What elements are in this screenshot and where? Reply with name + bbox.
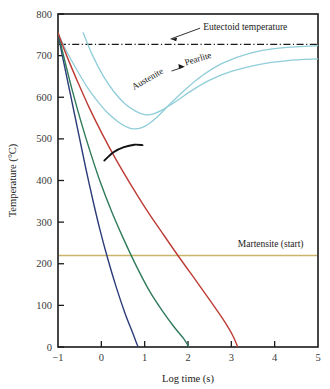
austenite-label: Austenite bbox=[130, 66, 165, 92]
series-line-cooling-curve-medium bbox=[58, 33, 189, 347]
y-axis-tick-label: 800 bbox=[36, 9, 52, 20]
y-axis-tick-label: 300 bbox=[36, 217, 52, 228]
y-axis-tick-label: 400 bbox=[36, 175, 52, 186]
y-axis-tick-label: 200 bbox=[36, 258, 52, 269]
x-axis-tick-label: −1 bbox=[52, 352, 63, 363]
chart-canvas: 0100200300400500600700800−1012345Log tim… bbox=[0, 0, 330, 389]
y-axis-tick-label: 500 bbox=[36, 133, 52, 144]
x-axis-title: Log time (s) bbox=[162, 373, 214, 385]
ttt-diagram-chart: 0100200300400500600700800−1012345Log tim… bbox=[0, 0, 330, 389]
marker-transformation-arc bbox=[104, 145, 142, 161]
series-line-austenite-to-pearlite-start bbox=[58, 33, 318, 129]
series-line-austenite-to-pearlite-finish bbox=[83, 33, 318, 115]
x-axis-tick-label: 4 bbox=[272, 352, 278, 363]
eutectoid-leader-line bbox=[171, 28, 200, 39]
x-axis-tick-label: 0 bbox=[99, 352, 104, 363]
y-axis-tick-label: 0 bbox=[47, 342, 52, 353]
pearlite-label: Pearlite bbox=[183, 50, 212, 68]
x-axis-tick-label: 2 bbox=[185, 352, 190, 363]
y-axis-tick-label: 600 bbox=[36, 92, 52, 103]
x-axis-tick-label: 3 bbox=[229, 352, 234, 363]
x-axis-tick-label: 5 bbox=[315, 352, 320, 363]
y-axis-title: Temperature (°C) bbox=[7, 143, 19, 217]
martensite-start-label: Martensite (start) bbox=[238, 239, 304, 250]
x-axis-tick-label: 1 bbox=[142, 352, 147, 363]
eutectoid-temperature-label: Eutectoid temperature bbox=[203, 22, 287, 32]
series-group bbox=[58, 33, 318, 347]
y-axis-tick-label: 100 bbox=[36, 300, 52, 311]
y-axis-tick-label: 700 bbox=[36, 50, 52, 61]
